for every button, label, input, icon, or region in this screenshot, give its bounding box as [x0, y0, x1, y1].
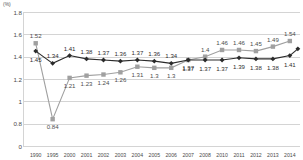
dark-series-value-label: 1.34	[165, 52, 177, 59]
dark-series-value-label: 1.38	[267, 64, 279, 71]
data-point-marker	[135, 58, 140, 63]
data-point-marker	[135, 65, 139, 69]
gray-series-value-label: 1.3	[167, 72, 175, 79]
data-point-marker	[220, 58, 225, 63]
data-point-marker	[270, 57, 275, 62]
gray-series-value-label: 1.4	[201, 46, 209, 53]
dark-series-value-label: 1.37	[182, 65, 194, 72]
data-point-marker	[237, 55, 242, 60]
data-point-marker	[101, 58, 106, 63]
data-point-marker	[101, 72, 105, 76]
gray-series-value-label: 1.21	[64, 82, 76, 89]
gray-series-value-label: 1.23	[81, 80, 93, 87]
data-point-marker	[169, 61, 174, 66]
data-point-marker	[50, 117, 54, 121]
dark-series-value-label: 1.37	[199, 65, 211, 72]
gray-series-value-label: 1.46	[216, 39, 228, 46]
data-point-marker	[220, 48, 224, 52]
data-point-marker	[254, 49, 258, 53]
data-point-marker	[84, 73, 88, 77]
dark-series-value-label: 1.36	[148, 50, 160, 57]
gray-series-value-label: 1.45	[250, 40, 262, 47]
gray-series-value-label: 1.26	[114, 76, 126, 83]
data-point-marker	[118, 59, 123, 64]
data-point-marker	[67, 76, 71, 80]
gray-series-value-label: 1.54	[284, 30, 296, 37]
data-point-marker	[152, 59, 157, 64]
data-point-marker	[152, 66, 156, 70]
gray-series-value-label: 1.31	[131, 71, 143, 78]
dark-series-value-label: 1.45	[30, 56, 42, 63]
dark-series-value-label: 1.41	[284, 61, 296, 68]
dark-series-value-label: 1.37	[216, 65, 228, 72]
gray-series-value-label: 1.46	[233, 39, 245, 46]
data-point-marker	[237, 48, 241, 52]
line-chart: (%) 1.81.61.41.210.80 199019952000200120…	[0, 0, 303, 160]
gray-series-value-label: 0.84	[47, 123, 59, 130]
data-point-marker	[288, 39, 292, 43]
dark-series-value-label: 1.38	[250, 64, 262, 71]
dark-series-value-label: 1.37	[98, 49, 110, 56]
dark-series-value-label: 1.34	[47, 52, 59, 59]
data-point-marker	[254, 57, 259, 62]
data-point-marker	[169, 66, 173, 70]
series-layer	[0, 0, 303, 160]
gray-series-value-label: 1.24	[98, 79, 110, 86]
gray-series-value-label: 1.49	[267, 36, 279, 43]
dark-series-value-label: 1.37	[131, 49, 143, 56]
data-point-marker	[271, 44, 275, 48]
data-point-marker	[34, 41, 38, 45]
gray-series-value-label: 1.52	[30, 32, 42, 39]
dark-series-value-label: 1.36	[114, 50, 126, 57]
dark-series-value-label: 1.39	[233, 63, 245, 70]
dark-series-value-label: 1.41	[64, 45, 76, 52]
data-point-marker	[67, 53, 72, 58]
data-point-marker	[84, 57, 89, 62]
gray-series-value-label: 1.3	[150, 72, 158, 79]
data-point-marker	[118, 70, 122, 74]
dark-series-value-label: 1.38	[81, 48, 93, 55]
